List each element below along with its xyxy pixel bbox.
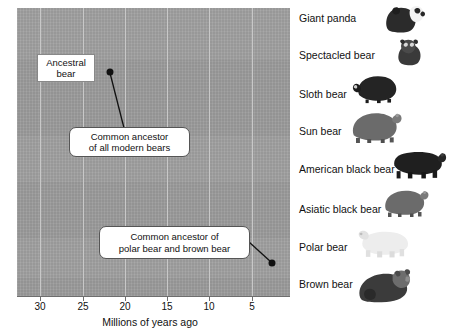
bear-illustration-sun-bear bbox=[345, 107, 403, 143]
taxon-label-sun-bear: Sun bear bbox=[299, 125, 342, 137]
bear-illustration-polar-bear bbox=[356, 222, 414, 258]
leader-line-polar-brown bbox=[249, 242, 271, 262]
taxon-label-sloth-bear: Sloth bear bbox=[299, 88, 347, 100]
bear-illustration-sloth-bear bbox=[351, 70, 403, 104]
bear-illustration-asiatic-black-bear bbox=[379, 183, 429, 219]
polar-brown-node bbox=[269, 260, 276, 267]
leader-line-root bbox=[110, 73, 124, 128]
callout-ancestral-bear: Ancestral bear bbox=[37, 54, 95, 82]
callout-common-ancestor-polar-brown: Common ancestor of polar bear and brown … bbox=[99, 226, 250, 259]
bear-illustration-spectacled-bear bbox=[388, 35, 432, 69]
taxon-label-giant-panda: Giant panda bbox=[299, 12, 356, 24]
bear-illustration-brown-bear bbox=[353, 262, 413, 306]
figure-canvas: 30252015105 Millions of years ago Ancest… bbox=[0, 0, 450, 333]
callout-common-ancestor-all: Common ancestor of all modern bears bbox=[69, 127, 190, 157]
bear-illustration-american-black-bear bbox=[387, 143, 449, 179]
taxon-label-brown-bear: Brown bear bbox=[299, 278, 353, 290]
root-node bbox=[107, 69, 114, 76]
taxon-label-asiatic-black-bear: Asiatic black bear bbox=[299, 203, 381, 215]
taxon-label-polar-bear: Polar bear bbox=[299, 241, 347, 253]
taxon-label-american-black-bear: American black bear bbox=[299, 163, 395, 175]
bear-illustration-giant-panda bbox=[379, 2, 431, 34]
taxon-label-spectacled-bear: Spectacled bear bbox=[299, 49, 375, 61]
